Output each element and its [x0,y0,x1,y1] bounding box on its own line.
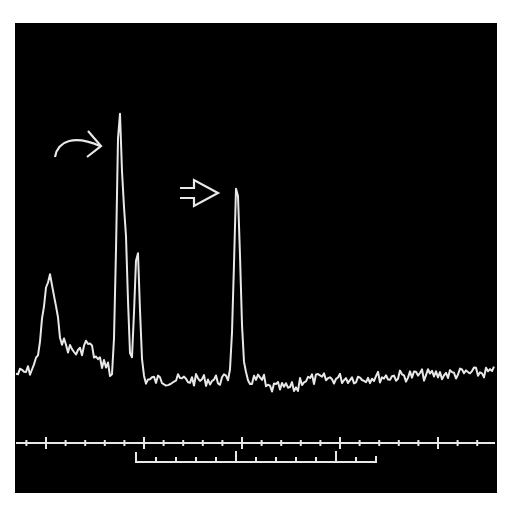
scale-bar [136,451,376,462]
curved-arrow-icon [55,131,101,157]
spectrum-chart [0,0,515,517]
ppm-axis [16,437,495,449]
hollow-arrow-icon [180,180,218,206]
